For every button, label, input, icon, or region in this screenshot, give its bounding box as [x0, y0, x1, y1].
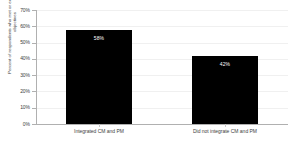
bar: 42% — [192, 56, 258, 124]
y-tick-mark — [32, 10, 36, 11]
y-tick-mark — [32, 43, 36, 44]
y-tick-label: 70% — [0, 8, 30, 13]
x-tick-mark — [99, 124, 100, 127]
y-tick-label: 30% — [0, 73, 30, 78]
bar-value-label: 58% — [66, 36, 132, 41]
bar-value-label: 42% — [192, 62, 258, 67]
bar-chart: Percent of respondents who met or exceed… — [0, 0, 296, 143]
gridline — [36, 26, 288, 27]
y-tick-mark — [32, 59, 36, 60]
x-category-label: Integrated CM and PM — [36, 128, 162, 134]
y-tick-mark — [32, 75, 36, 76]
x-tick-mark — [225, 124, 226, 127]
y-tick-label: 10% — [0, 105, 30, 110]
y-tick-label: 20% — [0, 89, 30, 94]
gridline — [36, 10, 288, 11]
x-category-label: Did not integrate CM and PM — [162, 128, 288, 134]
y-tick-mark — [32, 26, 36, 27]
y-tick-label: 60% — [0, 24, 30, 29]
y-tick-label: 40% — [0, 56, 30, 61]
bar: 58% — [66, 30, 132, 124]
y-tick-mark — [32, 108, 36, 109]
x-axis-line — [36, 124, 288, 125]
y-tick-mark — [32, 91, 36, 92]
y-tick-label: 50% — [0, 40, 30, 45]
y-tick-mark — [32, 124, 36, 125]
y-axis-line — [36, 10, 37, 124]
y-tick-label: 0% — [0, 122, 30, 127]
